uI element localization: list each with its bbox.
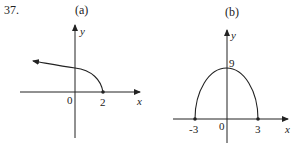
graph-b-x-label: x [285,124,290,135]
graph-a-title: (a) [75,4,88,16]
problem-number: 37. [4,4,19,16]
graph-b-endpoint-right [256,117,260,121]
graph-b-y-label: y [231,30,236,41]
graph-b-title: (b) [225,6,239,18]
graph-b-tick-9: 9 [229,58,235,69]
graph-a-x-label: x [137,96,142,107]
graph-a-endpoint [101,90,105,94]
graph-a [20,25,140,138]
graph-a-y-label: y [80,26,85,37]
graph-b-tick-3: 3 [255,124,261,135]
graph-b-tick-neg3: -3 [189,124,198,135]
graph-a-origin-label: 0 [67,95,73,106]
graphs-canvas [0,0,293,145]
graph-a-curve [33,61,103,92]
graph-a-tick-2: 2 [100,97,106,108]
graph-b-endpoint-left [193,117,197,121]
graph-b-origin-label: 0 [219,121,225,132]
